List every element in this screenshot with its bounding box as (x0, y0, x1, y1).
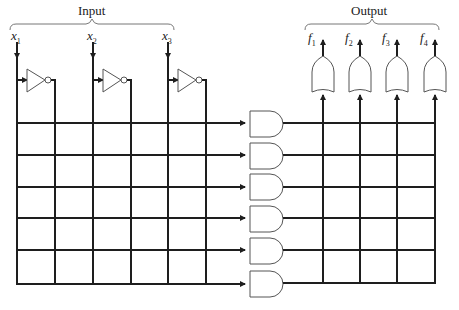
and-gate-4 (250, 206, 283, 232)
pla-circuit-diagram (0, 0, 459, 310)
output-label-f2: f2 (345, 30, 353, 48)
output-arrows (323, 40, 435, 56)
input-label-x2: x2 (87, 28, 97, 46)
and-gates (250, 111, 283, 297)
or-gate-4 (424, 56, 446, 92)
input-label-x3: x3 (162, 28, 172, 46)
input-label-x1: x1 (11, 28, 21, 46)
output-label-f1: f1 (308, 30, 316, 48)
and-gate-6 (250, 271, 283, 297)
and-gate-2 (250, 143, 283, 169)
or-gate-1 (312, 56, 334, 92)
or-gate-2 (349, 56, 371, 92)
output-label-f4: f4 (420, 30, 428, 48)
output-label-f3: f3 (382, 30, 390, 48)
output-brace (305, 19, 439, 30)
inverter-1 (17, 69, 55, 285)
inverter-2 (93, 69, 131, 285)
output-group-label: Output (351, 3, 387, 19)
input-group-label: Input (78, 3, 105, 19)
and-gate-3 (250, 174, 283, 200)
inverter-3 (168, 69, 206, 285)
or-gate-3 (386, 56, 408, 92)
and-gate-5 (250, 238, 283, 264)
or-gates (312, 56, 446, 92)
and-gate-1 (250, 111, 283, 137)
